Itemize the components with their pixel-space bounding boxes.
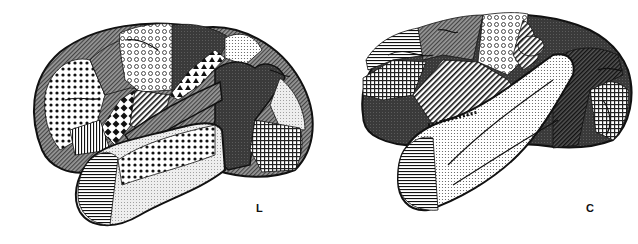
brain-illustration-left [0, 0, 320, 244]
brain-panel-right: C [318, 0, 638, 244]
brain-panel-left: L [0, 0, 320, 244]
panel-label-left: L [256, 202, 263, 214]
panel-label-right: C [586, 202, 594, 214]
